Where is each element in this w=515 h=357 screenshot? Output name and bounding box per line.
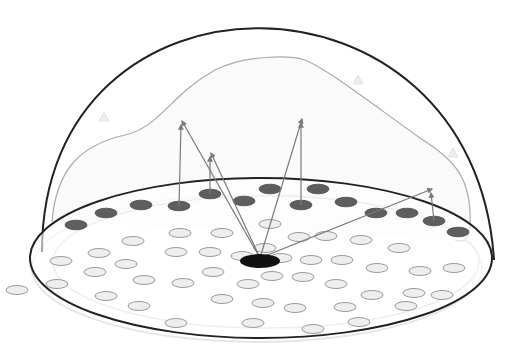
light-cell xyxy=(88,249,110,258)
light-cell xyxy=(292,273,314,282)
light-cell xyxy=(84,268,106,277)
light-cell xyxy=(169,229,191,238)
dome-diagram xyxy=(0,0,515,357)
faint-triangle-marker xyxy=(448,148,458,157)
dark-cell xyxy=(130,200,152,210)
light-cell xyxy=(165,248,187,257)
light-cell xyxy=(331,256,353,265)
light-cell xyxy=(252,299,274,308)
light-cell xyxy=(315,232,337,241)
light-cell xyxy=(6,286,28,295)
light-cell xyxy=(403,289,425,298)
light-cell xyxy=(388,244,410,253)
light-cell xyxy=(211,229,233,238)
light-cell xyxy=(237,280,259,289)
light-cell xyxy=(350,236,372,245)
source-spot xyxy=(240,254,280,268)
light-cell xyxy=(50,257,72,266)
light-cell xyxy=(46,280,68,289)
light-cell xyxy=(431,291,453,300)
light-cell xyxy=(348,318,370,327)
light-cell xyxy=(242,319,264,328)
light-cell xyxy=(366,264,388,273)
light-cell xyxy=(409,267,431,276)
light-cell xyxy=(165,319,187,328)
faint-triangle-marker xyxy=(99,112,109,121)
light-cell xyxy=(284,304,306,313)
light-cell xyxy=(288,233,310,242)
light-cell xyxy=(199,248,221,257)
faint-triangle-marker xyxy=(353,75,363,84)
light-cell xyxy=(261,272,283,281)
source-point xyxy=(240,254,280,268)
dark-cell xyxy=(365,208,387,218)
dark-cell xyxy=(259,184,281,194)
dark-cell xyxy=(396,208,418,218)
light-cell xyxy=(300,256,322,265)
light-cell xyxy=(202,268,224,277)
light-cell xyxy=(325,280,347,289)
light-cell xyxy=(361,291,383,300)
dark-cell xyxy=(307,184,329,194)
light-cell xyxy=(395,302,417,311)
light-cell xyxy=(334,303,356,312)
dark-cell xyxy=(233,196,255,206)
dark-cell xyxy=(65,220,87,230)
dark-cell xyxy=(95,208,117,218)
light-cell xyxy=(95,292,117,301)
diagram-canvas xyxy=(0,0,515,357)
light-cell xyxy=(302,325,324,334)
light-cell xyxy=(172,279,194,288)
light-cell xyxy=(128,302,150,311)
dark-cell xyxy=(335,197,357,207)
light-cell xyxy=(115,260,137,269)
light-cell xyxy=(133,276,155,285)
light-cell xyxy=(443,264,465,273)
light-cell xyxy=(211,295,233,304)
dark-cell xyxy=(447,227,469,237)
light-cell xyxy=(122,237,144,246)
